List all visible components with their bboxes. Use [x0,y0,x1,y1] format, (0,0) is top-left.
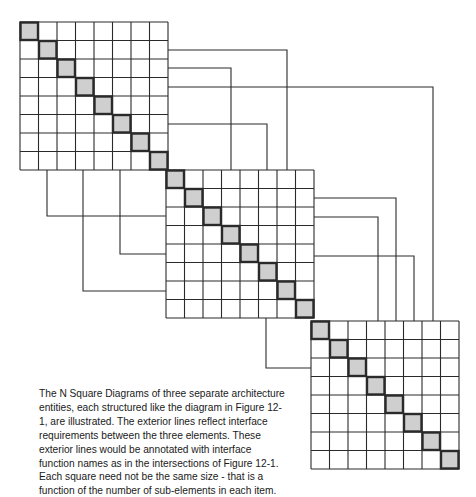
diagonal-cell [95,97,113,115]
grid-entity-3 [311,321,459,469]
connector-entity-1-to-entity-2 [168,124,267,170]
diagonal-cell [367,377,385,395]
diagonal-cell [222,226,240,244]
diagonal-cell [349,359,367,377]
diagonal-cell [441,451,459,469]
diagonal-cell [132,134,150,152]
diagonal-cell [241,245,259,263]
figure-caption: The N Square Diagrams of three separate … [39,387,289,497]
connector-entity-2-to-entity-3 [314,256,414,321]
diagonal-cell [150,152,168,170]
connector-entity-1-to-entity-2 [168,68,231,170]
diagonal-cell [312,322,330,340]
diagonal-cell [204,208,222,226]
diagonal-cell [167,171,185,189]
diagonal-cell [404,414,422,432]
connector-entity-1-to-entity-2 [83,170,166,291]
grid-entity-2 [166,170,314,318]
diagonal-cell [423,433,441,451]
diagonal-cell [39,41,57,59]
diagonal-cell [296,300,314,318]
diagonal-cell [21,23,39,41]
connector-entity-2-to-entity-3 [266,318,311,368]
diagonal-cell [76,78,94,96]
grid-entity-1 [20,22,168,170]
diagonal-cell [278,282,296,300]
diagonal-cell [113,115,131,133]
connector-entity-2-to-entity-3 [314,217,378,321]
connector-entity-1-to-entity-2 [47,170,166,216]
diagonal-cell [259,263,277,281]
diagonal-cell [58,60,76,78]
diagonal-cell [330,340,348,358]
diagonal-cell [185,189,203,207]
diagonal-cell [386,396,404,414]
connector-entity-1-to-entity-2 [120,170,166,254]
